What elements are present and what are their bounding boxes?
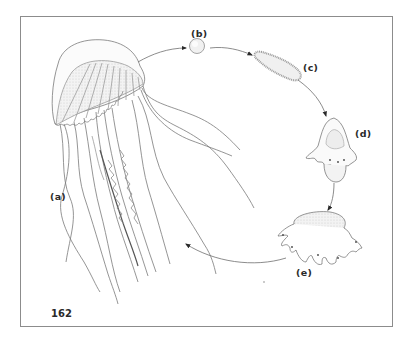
- ink-speck: [263, 281, 265, 283]
- arrow-e-to-a: [186, 244, 286, 263]
- stage-label-d: (d): [355, 128, 371, 139]
- ephyra-illustration: [278, 212, 362, 265]
- arrow-b-to-c: [210, 47, 252, 55]
- arrow-a-to-b: [138, 48, 186, 62]
- stage-label-a: (a): [50, 191, 66, 202]
- stage-label-c: (c): [303, 62, 318, 73]
- life-cycle-diagram: [0, 0, 410, 346]
- arrow-d-to-e: [328, 183, 334, 210]
- planula-larva-illustration: [255, 52, 301, 81]
- arrow-c-to-d: [298, 80, 326, 116]
- page-number: 162: [51, 308, 72, 319]
- egg-illustration: [190, 39, 205, 54]
- adult-medusa-illustration: [52, 40, 254, 304]
- strobila-illustration: [306, 118, 357, 182]
- stage-label-b: (b): [191, 28, 207, 39]
- stage-label-e: (e): [296, 267, 312, 278]
